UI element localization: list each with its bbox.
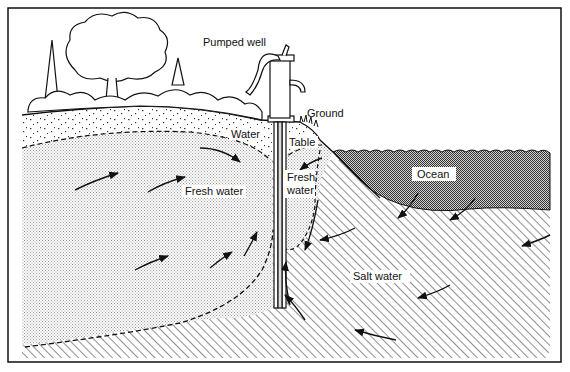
label-table: Table <box>289 136 315 148</box>
saltwater-intrusion-diagram: Pumped well Ground Water Table Fresh wat… <box>0 0 570 372</box>
fresh-water-lens <box>22 131 273 345</box>
label-pumped-well: Pumped well <box>203 36 266 48</box>
label-fresh-small-2: water <box>286 184 314 196</box>
label-fresh-water-main: Fresh water <box>185 185 243 197</box>
label-ground: Ground <box>307 107 344 119</box>
label-ocean: Ocean <box>417 168 449 180</box>
label-water: Water <box>231 128 260 140</box>
label-fresh-small-1: Fresh <box>287 171 315 183</box>
label-salt-water: Salt water <box>353 270 402 282</box>
